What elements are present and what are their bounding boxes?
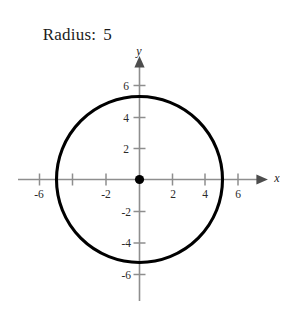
y-tick-label--6: -6 [121, 269, 131, 281]
figure-canvas: Radius:5 [0, 0, 291, 327]
y-tick-label-2: 2 [123, 143, 129, 155]
x-tick-label-2: 2 [170, 188, 176, 200]
x-tick-label-4: 4 [202, 188, 208, 200]
origin-point [135, 175, 144, 184]
y-tick-label-4: 4 [123, 112, 129, 124]
x-tick-label--2: -2 [101, 188, 111, 200]
y-axis-label: y [135, 44, 142, 58]
y-tick-label--2: -2 [121, 206, 131, 218]
x-tick-label-6: 6 [235, 188, 241, 200]
y-tick-label--4: -4 [121, 237, 131, 249]
x-axis-label: x [273, 171, 280, 185]
coordinate-plane: -6 -2 2 4 6 6 4 2 -2 -4 -6 x y [0, 0, 291, 327]
y-tick-label-6: 6 [123, 80, 129, 92]
x-tick-label--6: -6 [34, 188, 44, 200]
